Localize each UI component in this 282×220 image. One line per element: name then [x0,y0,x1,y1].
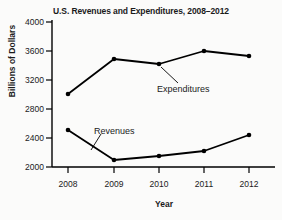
data-point-revenues-2008 [66,128,71,133]
y-axis-ticks [46,22,52,167]
data-point-expenditures-2011 [202,49,207,54]
data-point-expenditures-2010 [157,62,162,67]
leader-line-expenditures [161,67,178,83]
data-point-revenues-2009 [112,158,117,163]
series-line-expenditures [66,49,252,97]
data-point-expenditures-2009 [112,57,117,62]
series-line-revenues [66,128,252,163]
x-axis-ticks [68,167,249,173]
data-point-revenues-2012 [247,133,252,138]
data-point-revenues-2010 [157,154,162,159]
data-point-expenditures-2012 [247,54,252,59]
chart-figure: U.S. Revenues and Expenditures, 2008–201… [0,0,282,220]
data-point-revenues-2011 [202,149,207,154]
axis-lines [52,20,275,167]
plot-area [0,0,282,220]
data-point-expenditures-2008 [66,92,71,97]
